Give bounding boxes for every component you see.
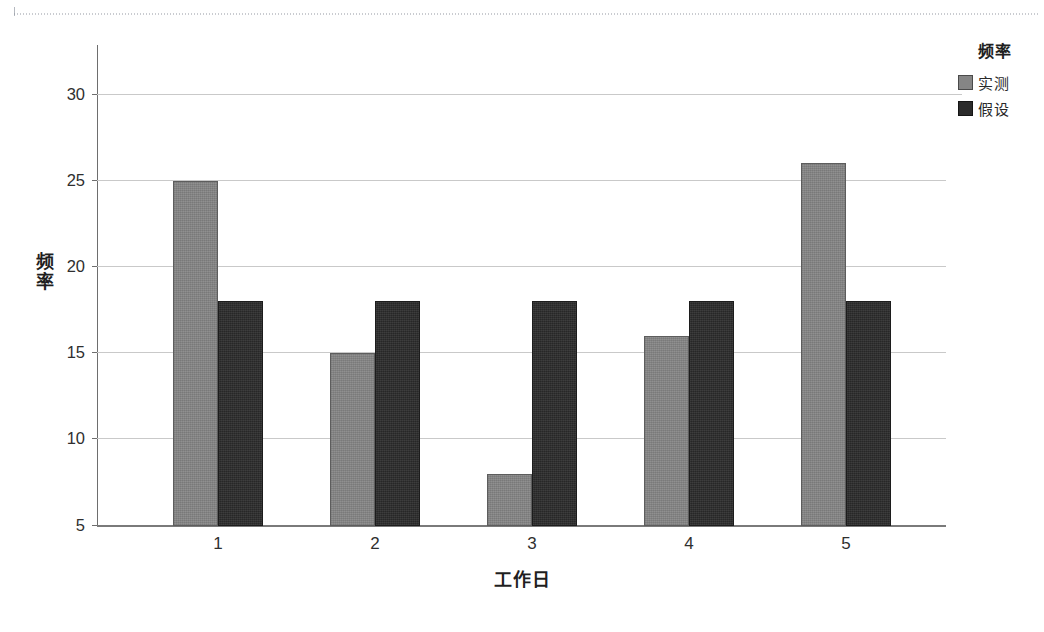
x-tick-label-5: 5 <box>801 534 891 554</box>
y-tick-label-30: 30 <box>45 85 85 104</box>
bar-expected-1[interactable] <box>218 301 263 526</box>
x-tick-label-4: 4 <box>644 534 734 554</box>
y-tick-label-10: 10 <box>45 429 85 448</box>
legend-label-expected: 假设 <box>978 98 1009 119</box>
y-tick-label-15: 15 <box>45 343 85 362</box>
y-tick-label-5: 5 <box>45 516 85 535</box>
x-axis-title: 工作日 <box>0 565 1044 591</box>
chart-page: 频率 30 25 20 15 10 5 1 2 3 4 5 <box>0 0 1044 632</box>
bar-observed-5[interactable] <box>801 163 846 526</box>
bar-observed-1[interactable] <box>173 181 218 526</box>
bar-expected-5[interactable] <box>846 301 891 526</box>
bar-expected-4[interactable] <box>689 301 734 526</box>
legend-label-observed: 实测 <box>978 72 1009 93</box>
bar-observed-2[interactable] <box>330 353 375 526</box>
x-tick-label-3: 3 <box>487 534 577 554</box>
legend: 频率 实测 假设 <box>958 38 1042 124</box>
legend-title: 频率 <box>958 38 1032 62</box>
bar-expected-3[interactable] <box>532 301 577 526</box>
x-tick-label-1: 1 <box>173 534 263 554</box>
y-tick-label-25: 25 <box>45 171 85 190</box>
bar-observed-4[interactable] <box>644 336 689 526</box>
scan-artifact-line <box>14 13 1039 15</box>
bar-expected-2[interactable] <box>375 301 420 526</box>
legend-item-expected[interactable]: 假设 <box>958 98 1042 119</box>
legend-swatch-expected-icon <box>958 101 973 116</box>
x-tick-label-2: 2 <box>330 534 420 554</box>
y-tick-label-20: 20 <box>45 257 85 276</box>
bar-observed-3[interactable] <box>487 474 532 526</box>
plot-area <box>97 45 945 526</box>
legend-swatch-observed-icon <box>958 75 973 90</box>
legend-item-observed[interactable]: 实测 <box>958 72 1042 93</box>
